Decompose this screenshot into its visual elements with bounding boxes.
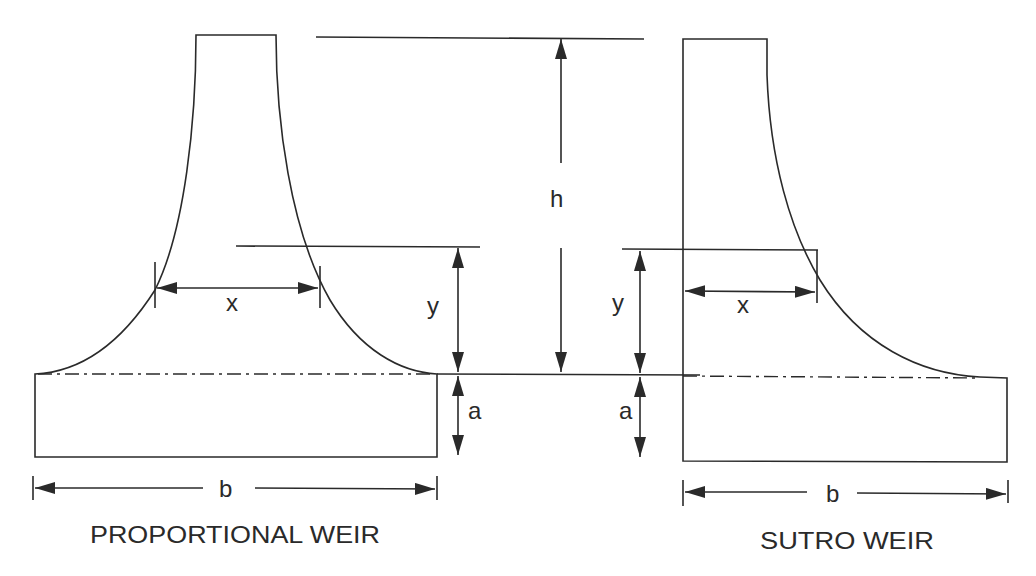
water-surface-line <box>316 37 644 39</box>
b-label-right: b <box>826 480 839 507</box>
b-label-left: b <box>219 475 232 502</box>
caption-sutro-weir: SUTRO WEIR <box>760 527 934 554</box>
weir-diagram: x y a b PROPORTIONAL WEIR h y x a <box>0 0 1036 576</box>
y-label-right: y <box>612 289 624 316</box>
b-dimension-left <box>33 476 437 500</box>
x-dimension-right <box>685 250 817 303</box>
crest-centerline-right <box>683 376 980 378</box>
caption-proportional-weir: PROPORTIONAL WEIR <box>90 521 380 548</box>
b-dimension-right <box>683 480 1008 506</box>
h-label: h <box>550 185 563 212</box>
crest-baseline <box>437 374 700 375</box>
sutro-weir-outline <box>683 39 1007 462</box>
x-label-left: x <box>226 289 238 316</box>
x-label-right: x <box>737 291 749 318</box>
y-dimension-left <box>236 246 480 372</box>
a-label-left: a <box>468 397 482 424</box>
y-dimension-right <box>622 249 818 373</box>
a-label-right: a <box>619 397 633 424</box>
y-label-left: y <box>427 292 439 319</box>
